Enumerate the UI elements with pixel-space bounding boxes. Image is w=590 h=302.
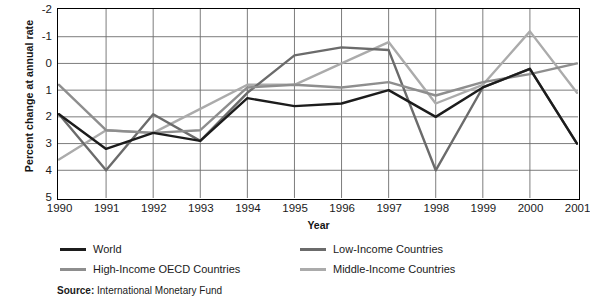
legend-swatch-line [60,268,86,271]
x-tick-label: 1994 [235,202,261,214]
source-text: International Monetary Fund [97,285,222,296]
legend-item: Low-Income Countries [300,243,443,255]
x-tick-label: 2000 [518,202,544,214]
y-tick-label: 2 [28,111,52,123]
x-axis-tick-labels: 1990199119921993199419951996199719981999… [57,202,580,218]
y-tick-label: 4 [28,165,52,177]
x-tick-label: 1998 [424,202,450,214]
y-tick-label: 0 [28,58,52,70]
x-tick-label: 1991 [94,202,120,214]
legend-swatch-line [60,248,86,251]
x-tick-label: 1999 [471,202,497,214]
series-line-world [59,69,577,149]
chart-figure: Percent change at annual rate 543210-1-2… [0,0,590,302]
y-tick-label: 3 [28,138,52,150]
y-tick-label: -1 [28,31,52,43]
x-tick-label: 1992 [141,202,167,214]
legend-swatch-line [300,248,326,251]
chart-legend: WorldLow-Income CountriesHigh-Income OEC… [60,243,560,283]
source-prefix: Source: [57,285,94,296]
legend-label: High-Income OECD Countries [93,263,240,275]
legend-item: High-Income OECD Countries [60,263,240,275]
x-tick-label: 1993 [188,202,214,214]
chart-svg [58,9,578,198]
x-tick-label: 1996 [329,202,355,214]
legend-item: World [60,243,122,255]
x-tick-label: 1995 [282,202,308,214]
legend-item: Middle-Income Countries [300,263,455,275]
source-note: Source: International Monetary Fund [57,285,222,296]
x-axis-label: Year [57,219,580,231]
x-tick-label: 1990 [47,202,73,214]
y-tick-label: 1 [28,85,52,97]
legend-label: Low-Income Countries [333,243,443,255]
legend-label: World [93,243,122,255]
x-tick-label: 1997 [376,202,402,214]
y-tick-label: -2 [28,4,52,16]
legend-swatch-line [300,268,326,271]
y-axis-tick-labels: 543210-1-2 [24,0,52,210]
x-tick-label: 2001 [565,202,590,214]
plot-area [57,8,580,200]
legend-label: Middle-Income Countries [333,263,455,275]
